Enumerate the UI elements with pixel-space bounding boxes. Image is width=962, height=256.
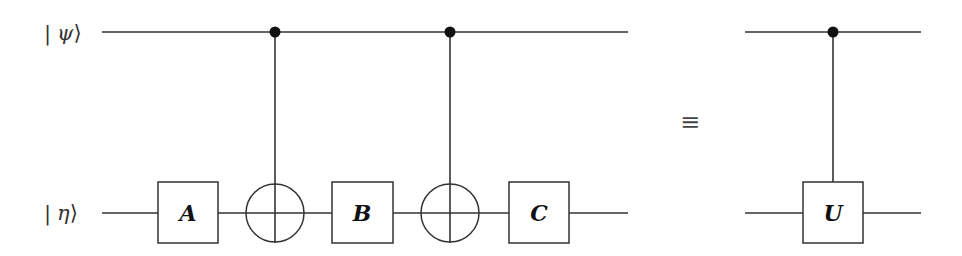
svg-text:|η⟩: |η⟩	[44, 201, 78, 226]
cnot-2-control-dot-icon	[445, 27, 456, 38]
gate-c-label: C	[530, 200, 548, 226]
equivalence-symbol: ≡	[680, 108, 700, 136]
controlled-u-gate: U	[803, 27, 863, 244]
gate-b-label: B	[352, 200, 372, 226]
controlled-u-control-dot-icon	[828, 27, 839, 38]
qubit-label-eta: |η⟩	[44, 201, 78, 226]
cnot-gate-2	[421, 27, 479, 244]
gate-b: B	[332, 182, 393, 243]
gate-a: A	[158, 182, 218, 243]
quantum-circuit-diagram: |ψ⟩ |η⟩ A B C ≡	[0, 0, 962, 256]
gate-u-label: U	[823, 200, 844, 226]
svg-text:|ψ⟩: |ψ⟩	[44, 21, 82, 46]
gate-c: C	[509, 182, 569, 243]
cnot-1-control-dot-icon	[270, 27, 281, 38]
qubit-label-psi: |ψ⟩	[44, 21, 82, 46]
cnot-gate-1	[246, 27, 304, 244]
gate-a-label: A	[177, 200, 196, 226]
